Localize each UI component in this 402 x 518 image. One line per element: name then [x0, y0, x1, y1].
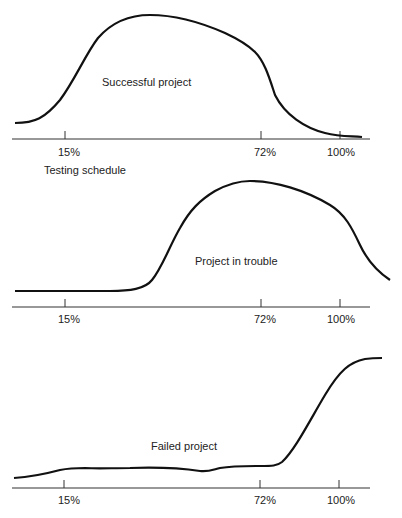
axis-caption: Testing schedule: [44, 164, 126, 176]
tick-label-72: 72%: [254, 494, 276, 506]
chart2-title: Project in trouble: [195, 255, 278, 267]
chart-failed-project: [12, 358, 382, 488]
chart-project-in-trouble: [12, 181, 390, 307]
tick-label-100: 100%: [327, 494, 355, 506]
tick-label-15: 15%: [58, 494, 80, 506]
tick-label-72: 72%: [254, 313, 276, 325]
chart1-title: Successful project: [102, 76, 191, 88]
curve-failed-project: [14, 358, 382, 478]
tick-label-15: 15%: [58, 313, 80, 325]
curve-project-in-trouble: [15, 181, 390, 291]
tick-label-100: 100%: [327, 146, 355, 158]
tick-label-72: 72%: [254, 146, 276, 158]
chart3-title: Failed project: [151, 440, 217, 452]
tick-label-100: 100%: [327, 313, 355, 325]
tick-label-15: 15%: [58, 146, 80, 158]
